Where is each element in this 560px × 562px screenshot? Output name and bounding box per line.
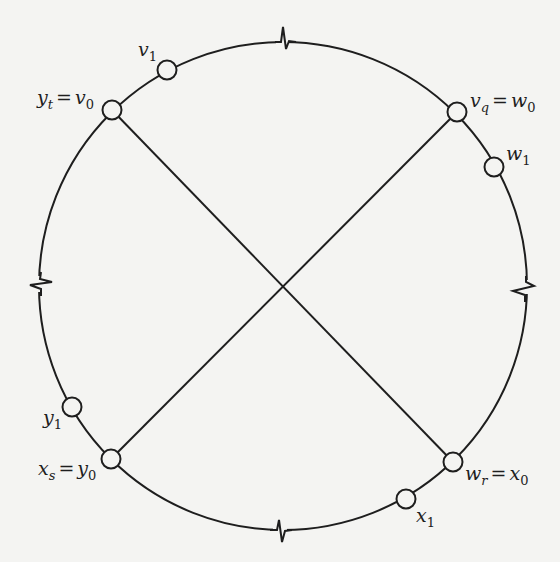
label-wr-eq-x0: wr=x0 (465, 462, 528, 488)
node-vq-w0 (448, 103, 467, 122)
node-y1 (63, 398, 82, 417)
label-y1: y1 (42, 406, 62, 432)
label-vq-eq-w0: vq=w0 (470, 89, 536, 115)
label-xs-eq-y0: xs=y0 (38, 457, 96, 483)
break-mark-right (513, 276, 534, 302)
node-w1 (485, 158, 504, 177)
break-mark-bottom (270, 520, 292, 542)
label-w1: w1 (506, 142, 531, 168)
node-yt-v0 (103, 101, 122, 120)
node-v1 (158, 61, 177, 80)
label-x1: x1 (416, 504, 435, 530)
node-x1 (397, 490, 416, 509)
cycle-diagram: v1 yt=v0 vq=w0 w1 y1 xs=y0 wr=x0 x1 (0, 0, 560, 562)
node-wr-x0 (444, 453, 463, 472)
label-v1: v1 (138, 38, 157, 64)
chord-vq-to-xs (111, 112, 457, 459)
break-mark-left (30, 272, 52, 296)
label-yt-eq-v0: yt=v0 (36, 86, 94, 112)
node-xs-y0 (102, 450, 121, 469)
break-mark-top (275, 27, 296, 49)
